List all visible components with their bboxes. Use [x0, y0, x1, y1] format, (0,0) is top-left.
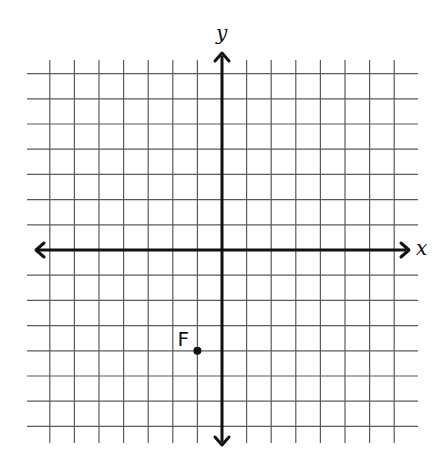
axes: [36, 53, 409, 445]
coordinate-plane: x y F: [0, 0, 442, 473]
x-axis-label: x: [416, 236, 427, 260]
point-f-label: F: [177, 327, 189, 351]
y-axis-label: y: [215, 21, 228, 45]
point-f-marker: [193, 347, 201, 355]
